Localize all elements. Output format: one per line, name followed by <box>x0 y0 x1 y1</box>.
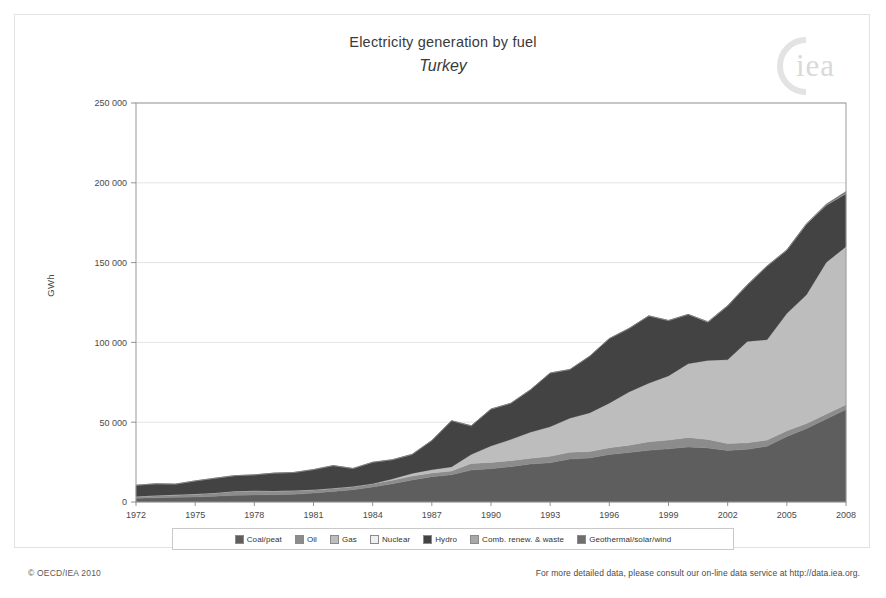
y-tick-label: 250 000 <box>94 98 127 108</box>
x-tick-label: 1978 <box>244 510 264 520</box>
legend-item-hydro: Hydro <box>423 535 457 544</box>
legend-swatch-icon <box>295 535 304 544</box>
x-tick-label: 2008 <box>836 510 856 520</box>
x-tick-label: 1981 <box>303 510 323 520</box>
data-service-note: For more detailed data, please consult o… <box>536 568 860 578</box>
y-tick-label: 100 000 <box>94 338 127 348</box>
x-tick-label: 2005 <box>777 510 797 520</box>
x-tick-label: 1996 <box>599 510 619 520</box>
x-axis-ticks: 1972197519781981198419871990199319961999… <box>126 502 856 520</box>
x-tick-label: 1987 <box>422 510 442 520</box>
legend-item-geothermal: Geothermal/solar/wind <box>577 535 671 544</box>
legend-item-comb: Comb. renew. & waste <box>470 535 564 544</box>
legend-item-coal: Coal/peat <box>235 535 282 544</box>
legend-label: Gas <box>342 535 357 544</box>
chart-legend: Coal/peatOilGasNuclearHydroComb. renew. … <box>172 528 734 550</box>
y-tick-label: 200 000 <box>94 178 127 188</box>
legend-swatch-icon <box>370 535 379 544</box>
legend-swatch-icon <box>577 535 586 544</box>
x-tick-label: 1984 <box>363 510 383 520</box>
x-tick-label: 1975 <box>185 510 205 520</box>
y-tick-label: 0 <box>122 497 127 507</box>
legend-item-gas: Gas <box>330 535 357 544</box>
legend-label: Coal/peat <box>247 535 282 544</box>
legend-swatch-icon <box>470 535 479 544</box>
legend-item-oil: Oil <box>295 535 317 544</box>
legend-swatch-icon <box>235 535 244 544</box>
copyright-text: © OECD/IEA 2010 <box>28 568 101 578</box>
area-series-layer <box>136 191 846 502</box>
x-tick-label: 1993 <box>540 510 560 520</box>
legend-label: Hydro <box>435 535 457 544</box>
x-tick-label: 1990 <box>481 510 501 520</box>
legend-label: Nuclear <box>382 535 410 544</box>
legend-label: Comb. renew. & waste <box>482 535 564 544</box>
y-tick-label: 150 000 <box>94 258 127 268</box>
x-tick-label: 1972 <box>126 510 146 520</box>
chart-canvas: 050 000100 000150 000200 000250 000 1972… <box>0 0 886 598</box>
legend-swatch-icon <box>330 535 339 544</box>
x-tick-label: 1999 <box>658 510 678 520</box>
legend-label: Geothermal/solar/wind <box>589 535 671 544</box>
y-tick-label: 50 000 <box>99 418 127 428</box>
legend-swatch-icon <box>423 535 432 544</box>
legend-label: Oil <box>307 535 317 544</box>
x-tick-label: 2002 <box>718 510 738 520</box>
y-axis-ticks: 050 000100 000150 000200 000250 000 <box>94 98 136 507</box>
legend-item-nuclear: Nuclear <box>370 535 410 544</box>
